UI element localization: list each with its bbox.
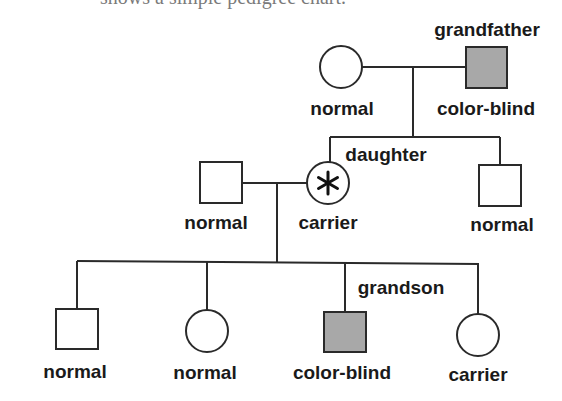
grandchild-2-symbol <box>186 310 228 352</box>
generation-grandchildren: grandson normal normal color-blind carri… <box>43 277 508 385</box>
grandmother-symbol <box>320 46 362 88</box>
father-symbol <box>200 162 242 203</box>
generation-grandparents: grandfather normal color-blind <box>310 19 540 137</box>
pedigree-chart: grandfather normal color-blind daughter … <box>0 0 562 401</box>
grandson-role-label: grandson <box>358 277 445 298</box>
generation-parents: daughter normal carrier normal <box>184 144 533 262</box>
grandfather-symbol <box>466 47 507 88</box>
grandchild-1-symbol <box>56 309 98 349</box>
grandson-symbol <box>324 312 366 352</box>
grandchild-4-symbol <box>457 314 499 356</box>
daughter-status-label: carrier <box>298 212 358 233</box>
grandchild-4-status-label: carrier <box>448 364 508 385</box>
son-symbol <box>479 165 521 206</box>
grandfather-status-label: color-blind <box>437 98 535 119</box>
grandmother-status-label: normal <box>310 98 373 119</box>
grandchild-2-status-label: normal <box>173 362 236 383</box>
son-status-label: normal <box>470 214 533 235</box>
grandchild-1-status-label: normal <box>43 361 106 382</box>
grandson-status-label: color-blind <box>293 362 391 383</box>
father-status-label: normal <box>184 212 247 233</box>
grandfather-role-label: grandfather <box>434 19 540 40</box>
daughter-role-label: daughter <box>345 144 427 165</box>
